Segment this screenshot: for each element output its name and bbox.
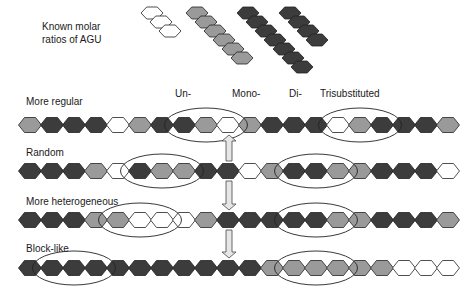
agu-hexagon-un (107, 164, 130, 179)
agu-hexagon-di (107, 261, 130, 276)
agu-hexagon-di (415, 213, 438, 228)
arrow-down-icon (222, 230, 236, 258)
arrow-down-icon (222, 181, 236, 210)
agu-hexagon-un (437, 261, 460, 276)
agu-hexagon-mono (129, 118, 152, 133)
agu-hexagon-mono (19, 118, 42, 133)
agu-hexagon-mono (349, 261, 372, 276)
agu-hexagon-di (173, 261, 196, 276)
agu-hexagon-di (261, 118, 284, 133)
agu-hexagon-mono (261, 261, 284, 276)
agu-hexagon-un (393, 261, 416, 276)
agu-hexagon-di (415, 164, 438, 179)
agu-hexagon-mono (327, 261, 350, 276)
agu-hexagon-di (63, 118, 86, 133)
agu-hexagon-mono (195, 118, 218, 133)
agu-hexagon-mono (85, 213, 108, 228)
agu-hexagon-di (217, 261, 240, 276)
agu-hexagon-di (217, 213, 240, 228)
agu-hexagon-un (151, 213, 174, 228)
agu-hexagon-un (327, 118, 350, 133)
agu-hexagon-di (41, 118, 64, 133)
agu-hexagon-di (41, 164, 64, 179)
substitution-diagram (0, 0, 476, 296)
agu-hexagon-di (195, 164, 218, 179)
agu-hexagon-di (41, 213, 64, 228)
agu-hexagon-mono (151, 164, 174, 179)
agu-hexagon-di (41, 261, 64, 276)
agu-hexagon-di (305, 118, 328, 133)
agu-hexagon-di (393, 118, 416, 133)
agu-hexagon-di (173, 118, 196, 133)
agu-hexagon-di (85, 261, 108, 276)
agu-hexagon-mono (305, 261, 328, 276)
agu-hexagon-di (305, 164, 328, 179)
arrow-up-icon (222, 135, 236, 161)
agu-hexagon-mono (437, 213, 460, 228)
agu-hexagon-mono (283, 261, 306, 276)
agu-hexagon-mono (239, 118, 262, 133)
agu-hexagon-di (151, 261, 174, 276)
agu-hexagon-di (371, 164, 394, 179)
agu-hexagon-di (129, 164, 152, 179)
agu-hexagon-un (239, 164, 262, 179)
agu-hexagon-mono (195, 213, 218, 228)
agu-hexagon-un (173, 213, 196, 228)
agu-hexagon-mono (327, 213, 350, 228)
agu-hexagon-di (261, 213, 284, 228)
agu-hexagon-di (393, 164, 416, 179)
agu-hexagon-di (283, 164, 306, 179)
agu-hexagon-mono (437, 118, 460, 133)
agu-hexagon-di (415, 118, 438, 133)
agu-hexagon-di (19, 164, 42, 179)
agu-hexagon-di (63, 213, 86, 228)
agu-hexagon-di (393, 213, 416, 228)
agu-hexagon-un (415, 261, 438, 276)
agu-hexagon-mono (371, 261, 394, 276)
agu-hexagon-mono (349, 213, 372, 228)
agu-hexagon-di (63, 261, 86, 276)
agu-hexagon-di (19, 261, 42, 276)
agu-hexagon-di (305, 213, 328, 228)
agu-hexagon-mono (85, 164, 108, 179)
agu-hexagon-di (239, 261, 262, 276)
agu-hexagon-mono (327, 164, 350, 179)
agu-hexagon-mono (107, 213, 130, 228)
agu-hexagon-di (85, 118, 108, 133)
agu-hexagon-mono (349, 118, 372, 133)
agu-hexagon-un (217, 118, 240, 133)
agu-hexagon-mono (173, 164, 196, 179)
agu-hexagon-di (217, 164, 240, 179)
agu-hexagon-un (437, 164, 460, 179)
agu-hexagon-di (19, 213, 42, 228)
agu-hexagon-un (129, 213, 152, 228)
agu-hexagon-di (371, 213, 394, 228)
agu-hexagon-di (239, 213, 262, 228)
agu-hexagon-di (195, 261, 218, 276)
agu-hexagon-di (283, 118, 306, 133)
agu-hexagon-di (151, 118, 174, 133)
agu-hexagon-di (371, 118, 394, 133)
agu-hexagon-mono (261, 164, 284, 179)
agu-hexagon-di (129, 261, 152, 276)
agu-hexagon-di (63, 164, 86, 179)
agu-hexagon-di (283, 213, 306, 228)
agu-hexagon-mono (349, 164, 372, 179)
agu-hexagon-un (107, 118, 130, 133)
